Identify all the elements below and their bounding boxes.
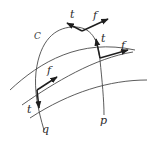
- field-line-bottom: [30, 80, 147, 118]
- tangent-vector-lower-left: [37, 90, 39, 108]
- label-q: q: [42, 123, 49, 136]
- label-t-right: t: [101, 32, 106, 45]
- label-p: p: [100, 114, 107, 127]
- label-f-top: f: [92, 9, 99, 22]
- label-t-lower-left: t: [27, 103, 32, 116]
- label-t-top: t: [70, 8, 75, 21]
- label-curve-c: C: [34, 31, 41, 41]
- vector-field-diagram: C t f t f f t q p: [0, 0, 160, 147]
- label-f-lower-left: f: [46, 64, 53, 77]
- curve-c: [35, 27, 104, 130]
- tangent-vector-right: [96, 39, 100, 58]
